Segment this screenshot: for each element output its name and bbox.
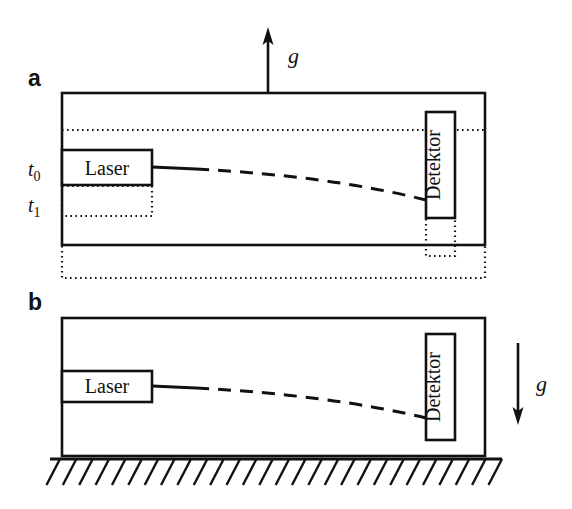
ground-hatching bbox=[46, 459, 502, 485]
hatch-mark bbox=[423, 459, 437, 485]
hatch-mark bbox=[96, 459, 110, 485]
hatch-mark bbox=[390, 459, 404, 485]
hatch-mark bbox=[358, 459, 372, 485]
hatch-mark bbox=[128, 459, 142, 485]
hatch-mark bbox=[177, 459, 191, 485]
hatch-mark bbox=[341, 459, 355, 485]
hatch-mark bbox=[276, 459, 290, 485]
hatch-mark bbox=[488, 459, 502, 485]
hatch-mark bbox=[259, 459, 273, 485]
hatch-mark bbox=[308, 459, 322, 485]
gravity-arrow-down-icon bbox=[513, 343, 524, 425]
time-label-t1: t1 bbox=[28, 194, 41, 220]
gravity-label-a: g bbox=[288, 43, 299, 68]
hatch-mark bbox=[325, 459, 339, 485]
hatch-mark bbox=[63, 459, 77, 485]
detector-label-a: Detektor bbox=[422, 130, 444, 200]
hatch-mark bbox=[292, 459, 306, 485]
laser-label-a: Laser bbox=[85, 157, 130, 179]
hatch-mark bbox=[243, 459, 257, 485]
box-ghost-a bbox=[62, 246, 485, 278]
time-label-t0: t0 bbox=[28, 158, 41, 184]
hatch-mark bbox=[79, 459, 93, 485]
hatch-mark bbox=[472, 459, 486, 485]
hatch-mark bbox=[46, 459, 60, 485]
gravity-arrow-up-icon bbox=[263, 27, 274, 95]
physics-figure: g a Laser Detektor t0 t1 bbox=[0, 0, 572, 509]
beam-stub-a bbox=[152, 167, 196, 169]
hatch-mark bbox=[439, 459, 453, 485]
detector-label-b: Detektor bbox=[422, 352, 444, 422]
panel-a-letter: a bbox=[28, 65, 41, 91]
hatch-mark bbox=[210, 459, 224, 485]
panel-a: g a Laser Detektor t0 t1 bbox=[28, 27, 485, 278]
hatch-mark bbox=[374, 459, 388, 485]
hatch-mark bbox=[145, 459, 159, 485]
panel-b-letter: b bbox=[28, 289, 42, 315]
hatch-mark bbox=[161, 459, 175, 485]
figure-canvas: g a Laser Detektor t0 t1 bbox=[0, 0, 572, 509]
hatch-mark bbox=[407, 459, 421, 485]
hatch-marks bbox=[46, 459, 502, 485]
laser-label-b: Laser bbox=[85, 375, 130, 397]
hatch-mark bbox=[227, 459, 241, 485]
beam-stub-b bbox=[152, 386, 196, 388]
gravity-label-b: g bbox=[536, 371, 547, 396]
hatch-mark bbox=[456, 459, 470, 485]
hatch-mark bbox=[112, 459, 126, 485]
panel-b: b Laser Detektor g bbox=[28, 289, 547, 485]
hatch-mark bbox=[194, 459, 208, 485]
